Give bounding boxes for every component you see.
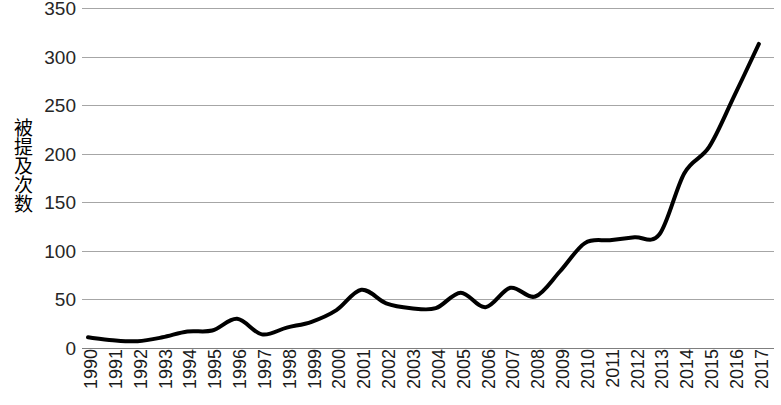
x-tick-label-2011: 2011	[604, 349, 622, 388]
y-tick-label-350: 350	[28, 0, 76, 18]
plot-area	[82, 8, 774, 348]
x-tick-label-1990: 1990	[82, 349, 100, 389]
y-tick-label-0: 0	[28, 339, 76, 358]
x-tick-label-1993: 1993	[157, 349, 175, 389]
x-tick-label-1994: 1994	[181, 349, 199, 389]
x-tick-label-2017: 2017	[753, 349, 771, 389]
x-tick-label-1995: 1995	[206, 349, 224, 389]
x-tick-label-1992: 1992	[132, 349, 150, 389]
x-tick-label-2010: 2010	[579, 349, 597, 389]
x-tick-label-2007: 2007	[504, 349, 522, 389]
x-tick-label-1996: 1996	[231, 349, 249, 389]
y-tick-label-150: 150	[28, 193, 76, 212]
line-chart: 被提及次数 050100150200250300350 199019911992…	[0, 0, 781, 405]
x-tick-label-2012: 2012	[629, 349, 647, 389]
y-tick-label-50: 50	[28, 290, 76, 309]
x-tick-label-2015: 2015	[703, 349, 721, 389]
x-tick-label-2003: 2003	[405, 349, 423, 389]
x-tick-label-1991: 1991	[107, 349, 125, 389]
series-line-citations	[82, 8, 774, 348]
x-tick-label-2006: 2006	[480, 349, 498, 389]
x-axis-tick-labels: 1990199119921993199419951996199719981999…	[82, 349, 774, 405]
x-tick-label-2016: 2016	[728, 349, 746, 389]
y-tick-label-300: 300	[28, 47, 76, 66]
x-tick-label-2013: 2013	[653, 349, 671, 389]
y-tick-label-200: 200	[28, 144, 76, 163]
x-tick-label-2001: 2001	[355, 349, 373, 389]
x-tick-label-2014: 2014	[678, 349, 696, 389]
y-tick-label-100: 100	[28, 241, 76, 260]
y-tick-label-250: 250	[28, 96, 76, 115]
x-tick-label-2005: 2005	[455, 349, 473, 389]
x-tick-label-1997: 1997	[256, 349, 274, 389]
x-tick-label-1999: 1999	[306, 349, 324, 389]
x-tick-label-2009: 2009	[554, 349, 572, 389]
x-tick-label-2004: 2004	[430, 349, 448, 389]
x-tick-label-2000: 2000	[330, 349, 348, 389]
x-tick-label-2002: 2002	[380, 349, 398, 389]
x-tick-label-1998: 1998	[281, 349, 299, 389]
x-tick-label-2008: 2008	[529, 349, 547, 389]
y-axis-tick-labels: 050100150200250300350	[26, 0, 76, 405]
